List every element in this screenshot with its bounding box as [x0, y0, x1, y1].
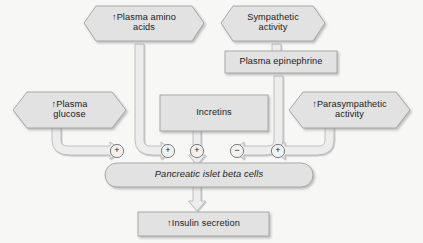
diagram-graphics — [0, 0, 423, 243]
sign-incretins-circle — [190, 144, 203, 157]
node-plasma-glucose[interactable] — [13, 92, 126, 128]
node-plasma-amino-acids[interactable] — [84, 6, 204, 41]
node-sympathetic-activity[interactable] — [221, 6, 325, 41]
node-incretins[interactable] — [160, 95, 268, 131]
node-insulin-secretion[interactable] — [138, 212, 269, 236]
sign-amino-acids-circle — [161, 144, 174, 157]
connector-beta-cells-to-insulin — [189, 186, 206, 211]
sign-epinephrine-circle — [230, 144, 243, 157]
node-beta-cells[interactable] — [105, 163, 313, 187]
node-plasma-epinephrine[interactable] — [225, 51, 337, 73]
diagram-canvas: ↑Plasma amino acids Sympathetic activity… — [0, 0, 423, 243]
sign-parasympathetic-circle — [271, 144, 284, 157]
node-layer — [13, 6, 410, 236]
sign-glucose-circle — [110, 144, 123, 157]
node-parasympathetic-activity[interactable] — [289, 92, 410, 128]
